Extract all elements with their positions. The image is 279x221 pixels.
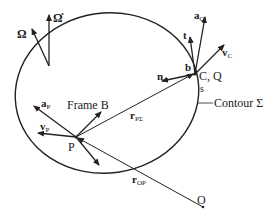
label-r-psigma: rPΣ — [130, 109, 143, 123]
label-v-c: vC — [222, 46, 233, 60]
point-cq — [193, 72, 196, 75]
label-a-p: aP — [41, 97, 51, 111]
label-frame-b: Frame B — [67, 98, 109, 112]
label-t: t — [183, 29, 187, 41]
label-o: O — [197, 193, 206, 207]
label-p: P — [68, 140, 75, 154]
label-b: b — [185, 61, 191, 73]
label-r-op: rOP — [132, 173, 146, 187]
contour-sigma — [5, 1, 209, 185]
kinematics-diagram: Ω̇ Ω Contour Σ aQ t vC b n C, Q s aP Fra… — [0, 0, 279, 221]
omega-label: Ω — [17, 27, 27, 41]
label-v-p: vP — [40, 120, 50, 134]
label-n: n — [157, 70, 163, 82]
label-s: s — [200, 83, 204, 94]
label-cq: C, Q — [199, 69, 222, 83]
p-vectors — [34, 106, 101, 165]
point-p — [75, 136, 78, 139]
omega-dot-label: Ω̇ — [53, 11, 64, 25]
contour-label: Contour Σ — [214, 96, 263, 110]
label-a-q: aQ — [194, 9, 205, 23]
